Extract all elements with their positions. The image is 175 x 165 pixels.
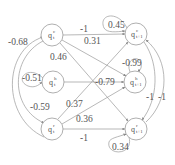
node-qh-t: q h t: [42, 71, 64, 93]
edge-qr-t-to-qc-t: [12, 37, 44, 137]
label-qc-t-to-qh-t1: 0.31: [84, 36, 101, 46]
node-label-base: q: [48, 31, 52, 40]
node-label-base: q: [49, 78, 53, 87]
label-loop-qc-t1: 0.45: [108, 20, 125, 30]
node-label-sub: t+1: [136, 129, 143, 134]
node-label-base: q: [48, 125, 52, 134]
label-qc-t-to-qc-t1: -1: [80, 24, 88, 34]
node-qr-t: q r t: [41, 118, 63, 140]
node-qc-t1: q c t+1: [125, 23, 147, 45]
node-label-base: q: [131, 125, 135, 134]
transition-diagram: -1 0.31 0.46 -0.79 0.37 0.36 -1 -0.68 -0…: [0, 0, 175, 165]
label-qc-t-to-qr-t: -0.59: [30, 102, 50, 112]
label-loop-qr-t1: 0.34: [112, 142, 129, 152]
node-qh-t1: q h t+1: [124, 71, 146, 93]
node-label-base: q: [131, 30, 135, 39]
label-qc-t1-to-qr-t1: -1: [146, 92, 154, 102]
label-qh-t-to-qh-t1: -0.79: [95, 77, 115, 87]
node-label-sub: t+1: [136, 34, 143, 39]
label-loop-qh-t1: -0.99: [122, 58, 142, 68]
label-qc-t-to-qr-t1: 0.46: [50, 52, 67, 62]
label-qr-t1-to-qc-t1: -1: [158, 92, 166, 102]
label-loop-qh-t: -0.51: [22, 73, 42, 83]
node-label-sub: t+1: [135, 82, 142, 87]
label-qr-t-to-qc-t: -0.68: [8, 37, 28, 47]
node-qc-t: q c t: [41, 24, 63, 46]
edge-qc-t-to-qc-t1: [63, 34, 125, 35]
label-qr-t-to-qc-t1: 0.37: [66, 99, 83, 109]
node-label-base: q: [130, 78, 134, 87]
label-qr-t-to-qh-t1: 0.36: [76, 114, 93, 124]
node-qr-t1: q r t+1: [125, 118, 147, 140]
label-qr-t-to-qr-t1: -1: [80, 133, 88, 143]
